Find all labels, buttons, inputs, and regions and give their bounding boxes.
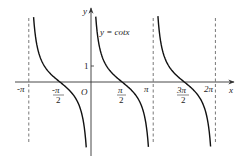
x-tick-neg-half-pi: -π 2 (52, 85, 64, 105)
y-tick-label-1: 1 (84, 61, 89, 71)
x-tick-3half-pi: 3π 2 (176, 85, 189, 105)
cot-graph: y x y = cotx O 1 -π π 2π -π 2 π 2 3π 2 (0, 0, 245, 163)
svg-text:π: π (118, 85, 123, 95)
svg-text:2: 2 (119, 95, 124, 105)
x-axis-label: x (228, 85, 233, 95)
origin-label: O (81, 87, 88, 97)
y-axis-label: y (82, 6, 87, 16)
x-tick-pi: π (144, 84, 149, 94)
svg-text:-π: -π (52, 85, 60, 95)
x-tick-half-pi: π 2 (117, 85, 126, 105)
svg-text:3π: 3π (176, 85, 187, 95)
function-label: y = cotx (99, 27, 130, 37)
x-tick-neg-pi: -π (17, 84, 25, 94)
x-tick-2pi: 2π (204, 84, 214, 94)
svg-text:2: 2 (56, 95, 61, 105)
svg-text:2: 2 (181, 95, 186, 105)
cot-branch (158, 16, 211, 146)
